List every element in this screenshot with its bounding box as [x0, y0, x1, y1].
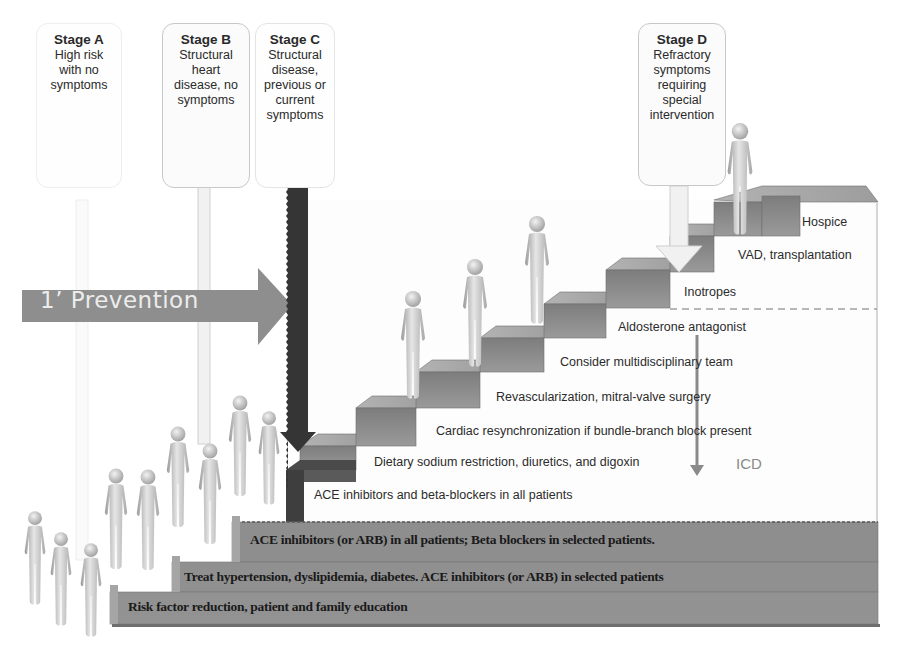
stage-b-title: Stage B	[163, 32, 249, 47]
step-label-multidisciplinary: Consider multidisciplinary team	[560, 355, 733, 369]
step-label-revascularization: Revascularization, mitral-valve surgery	[496, 390, 711, 404]
stage-b-description: Structural heart disease, no symptoms	[163, 48, 249, 108]
step-label-vad-transplant: VAD, transplantation	[738, 248, 852, 262]
step-label-cardiac-resync: Cardiac resynchronization if bundle-bran…	[436, 424, 751, 438]
stage-c-description: Structural disease, previous or current …	[256, 48, 334, 123]
base-label-risk-factor: Risk factor reduction, patient and famil…	[128, 599, 407, 615]
stage-b-box: Stage B Structural heart disease, no sym…	[162, 23, 250, 188]
base-label-treat-hypertension: Treat hypertension, dyslipidemia, diabet…	[184, 569, 664, 585]
step-label-hospice: Hospice	[802, 215, 847, 229]
stage-c-title: Stage C	[256, 32, 334, 47]
stage-d-box: Stage D Refractory symptoms requiring sp…	[638, 23, 726, 186]
stage-a-title: Stage A	[37, 32, 121, 47]
step-label-inotropes: Inotropes	[684, 285, 736, 299]
step-label-dietary-sodium: Dietary sodium restriction, diuretics, a…	[374, 455, 639, 469]
prevention-arrow-label: 1’ Prevention	[40, 287, 199, 313]
step-label-aldosterone: Aldosterone antagonist	[618, 320, 746, 334]
stage-c-box: Stage C Structural disease, previous or …	[255, 23, 335, 188]
staircase-diagram-graphics	[0, 0, 901, 655]
icd-label: ICD	[736, 455, 762, 472]
stage-a-box: Stage A High risk with no symptoms	[36, 23, 122, 188]
stage-d-description: Refractory symptoms requiring special in…	[639, 48, 725, 123]
stage-d-title: Stage D	[639, 32, 725, 47]
base-label-ace-arb-all: ACE inhibitors (or ARB) in all patients;…	[250, 532, 654, 548]
step-label-ace-beta: ACE inhibitors and beta-blockers in all …	[314, 488, 572, 502]
stage-a-description: High risk with no symptoms	[37, 48, 121, 93]
